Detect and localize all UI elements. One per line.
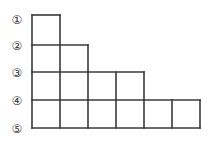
- row-label-1: ①: [9, 13, 25, 29]
- staircase-figure: ①②③④⑤: [0, 0, 217, 143]
- row-label-3: ③: [9, 66, 25, 82]
- staircase-grid: [0, 0, 217, 143]
- row-label-2: ②: [9, 39, 25, 55]
- row-label-5: ⑤: [9, 122, 25, 138]
- row-label-4: ④: [9, 94, 25, 110]
